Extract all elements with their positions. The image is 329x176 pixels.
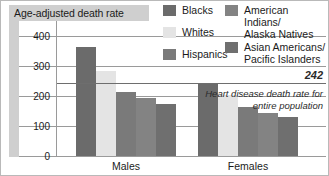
bar-fill xyxy=(136,98,156,157)
group-label-males: Males xyxy=(112,160,140,172)
bar xyxy=(136,98,156,157)
reference-note: Heart disease death rate for entire popu… xyxy=(203,88,323,111)
legend-label: Whites xyxy=(182,26,214,38)
y-axis-line xyxy=(56,21,57,157)
chart-title-band: Age-adjusted death rate xyxy=(9,5,149,21)
legend-item[interactable]: American Indians/ Alaska Natives xyxy=(225,4,328,40)
bar xyxy=(278,117,298,156)
page-title: Age-adjusted death rate xyxy=(14,7,124,19)
bar-fill xyxy=(258,113,278,157)
legend-item[interactable]: Asian Americans/ Pacific Islanders xyxy=(225,41,325,65)
bar xyxy=(258,113,278,157)
bar-fill xyxy=(116,92,136,157)
legend-item[interactable]: Hispanics xyxy=(163,48,228,60)
legend-label: Hispanics xyxy=(182,48,228,60)
bar xyxy=(156,104,176,157)
y-axis-tick-label: 400 xyxy=(19,31,50,42)
bar-fill xyxy=(238,107,258,157)
bar-fill xyxy=(156,104,176,157)
legend-swatch-icon xyxy=(225,42,238,53)
chart-container: Age-adjusted death rate 0100200300400 24… xyxy=(0,0,329,176)
bar xyxy=(238,107,258,157)
legend-label: American Indians/ Alaska Natives xyxy=(244,4,328,40)
y-axis-tick-label: 200 xyxy=(19,91,50,102)
chart-legend: BlacksWhitesHispanicsAmerican Indians/ A… xyxy=(163,4,328,62)
y-axis-tick-label: 100 xyxy=(19,121,50,132)
bar-fill xyxy=(278,117,298,156)
legend-swatch-icon xyxy=(163,5,176,16)
gridline xyxy=(19,156,326,157)
legend-item[interactable]: Blacks xyxy=(163,4,213,16)
y-axis-tick-label: 300 xyxy=(19,61,50,72)
left-rail-decoration xyxy=(9,21,19,157)
legend-label: Blacks xyxy=(182,4,213,16)
legend-swatch-icon xyxy=(225,5,238,16)
group-label-females: Females xyxy=(228,160,268,172)
legend-swatch-icon xyxy=(163,27,176,38)
bar-fill xyxy=(76,47,96,157)
reference-value-label: 242 xyxy=(305,69,323,81)
bar xyxy=(76,47,96,157)
bar xyxy=(116,92,136,157)
legend-item[interactable]: Whites xyxy=(163,26,214,38)
y-axis-tick-label: 0 xyxy=(19,151,50,162)
legend-label: Asian Americans/ Pacific Islanders xyxy=(244,41,325,65)
legend-swatch-icon xyxy=(163,49,176,60)
reference-line xyxy=(57,83,326,84)
gridline xyxy=(19,66,326,67)
